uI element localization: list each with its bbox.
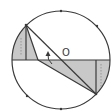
shaded-region-right	[38, 60, 110, 94]
center-label-o: O	[62, 47, 70, 58]
point-a	[25, 24, 28, 27]
circle-tick-top	[60, 10, 62, 12]
circle-tick-bottom	[60, 108, 62, 110]
arrow-head-icon	[46, 51, 51, 56]
circle-tick-lower-left	[26, 95, 28, 97]
shaded-region-left	[12, 25, 38, 60]
geometry-diagram: O	[0, 0, 112, 112]
point-b	[95, 93, 98, 96]
circle-tick-upper-right	[96, 25, 98, 27]
